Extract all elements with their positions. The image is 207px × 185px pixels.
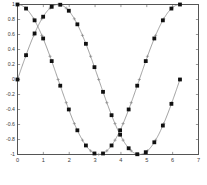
- curve-vertex-plus-marker: [130, 101, 133, 104]
- y-tick-label: 0.4: [0, 47, 15, 52]
- y-tick-label: -0.2: [0, 92, 15, 97]
- data-point-marker: [75, 128, 79, 132]
- data-point-marker: [84, 42, 88, 46]
- curve-vertex-plus-marker: [113, 122, 116, 125]
- curve-vertex-plus-marker: [48, 55, 51, 58]
- curve-vertex-plus-marker: [97, 78, 100, 81]
- data-point-marker: [24, 53, 28, 57]
- data-point-marker: [41, 15, 45, 19]
- data-point-marker: [135, 152, 139, 156]
- y-tick-label: 0.8: [0, 17, 15, 22]
- y-tick-label: -1: [0, 152, 15, 157]
- y-tick-label: -0.8: [0, 137, 15, 142]
- x-tick-label: 1: [37, 158, 49, 164]
- curve-vertex-plus-marker: [97, 153, 100, 156]
- data-point-marker: [75, 22, 79, 26]
- x-tick-label: 7: [193, 158, 205, 164]
- x-tick-label: 5: [141, 158, 153, 164]
- curve-vertex-plus-marker: [105, 101, 108, 104]
- data-point-marker: [16, 78, 20, 82]
- data-point-marker: [67, 9, 71, 13]
- y-tick-label: 0.2: [0, 62, 15, 67]
- data-point-marker: [16, 3, 20, 7]
- data-point-marker: [127, 146, 131, 150]
- curve-vertex-plus-marker: [89, 55, 92, 58]
- x-tick-label: 4: [115, 158, 127, 164]
- data-point-marker: [93, 65, 97, 69]
- x-tick-label: 6: [167, 158, 179, 164]
- data-point-marker: [127, 108, 131, 112]
- data-point-marker: [178, 78, 182, 82]
- tick-marks-group: [18, 5, 199, 155]
- x-tick-label: 2: [63, 158, 75, 164]
- data-point-marker: [170, 7, 174, 11]
- data-point-marker: [101, 90, 105, 94]
- data-point-marker: [144, 150, 148, 154]
- curve-vertex-plus-marker: [146, 55, 149, 58]
- y-tick-label: 0.6: [0, 32, 15, 37]
- curve-vertex-plus-marker: [122, 122, 125, 125]
- curve-vertex-plus-marker: [73, 122, 76, 125]
- curve-group: [16, 3, 182, 156]
- curve-vertex-plus-marker: [138, 78, 141, 81]
- figure-panel: -1-0.8-0.6-0.4-0.200.20.40.60.81 0123456…: [0, 0, 207, 185]
- data-point-marker: [50, 5, 54, 9]
- data-point-marker: [152, 37, 156, 41]
- data-point-marker: [161, 124, 165, 128]
- data-point-marker: [24, 7, 28, 11]
- data-point-marker: [135, 84, 139, 88]
- curve-vertex-plus-marker: [65, 101, 68, 104]
- data-point-marker: [178, 3, 182, 7]
- data-point-marker: [84, 144, 88, 148]
- data-point-marker: [110, 113, 114, 117]
- data-point-marker: [118, 128, 122, 132]
- data-point-marker: [170, 102, 174, 106]
- data-point-marker: [33, 18, 37, 22]
- x-tick-label: 3: [89, 158, 101, 164]
- data-point-marker: [41, 37, 45, 41]
- curve-vertex-plus-marker: [122, 139, 125, 142]
- curve-vertex-plus-marker: [81, 139, 84, 142]
- data-point-marker: [152, 140, 156, 144]
- y-tick-label: 0: [0, 77, 15, 82]
- y-tick-label: -0.6: [0, 122, 15, 127]
- curve-vertex-plus-marker: [154, 34, 157, 37]
- curve-vertex-plus-marker: [81, 34, 84, 37]
- data-point-marker: [33, 32, 37, 36]
- data-point-marker: [101, 152, 105, 156]
- data-point-marker: [118, 133, 122, 137]
- data-point-marker: [161, 18, 165, 22]
- y-tick-label: -0.4: [0, 107, 15, 112]
- curve-vertex-plus-marker: [57, 78, 60, 81]
- curve-vertex-plus-marker: [40, 34, 43, 37]
- data-point-marker: [58, 3, 62, 7]
- y-tick-label: 1: [0, 2, 15, 7]
- data-point-marker: [93, 152, 97, 156]
- curve-vertex-plus-marker: [113, 139, 116, 142]
- curve-vertex-plus-marker: [73, 17, 76, 20]
- data-point-marker: [58, 84, 62, 88]
- data-point-marker: [110, 144, 114, 148]
- data-point-marker: [67, 108, 71, 112]
- data-point-marker: [50, 59, 54, 63]
- x-tick-label: 0: [12, 158, 24, 164]
- data-point-marker: [144, 59, 148, 63]
